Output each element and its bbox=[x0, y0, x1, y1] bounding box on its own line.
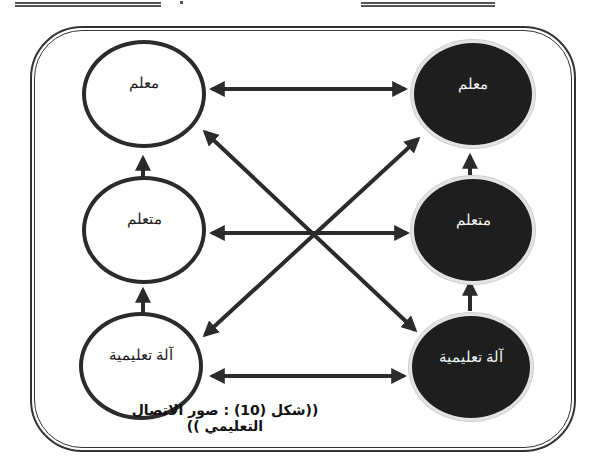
node-label: معلم bbox=[129, 74, 159, 92]
node-left-teacher: معلم bbox=[82, 40, 206, 148]
node-label: آلة تعليمية bbox=[109, 346, 174, 364]
node-left-learner: متعلم bbox=[82, 176, 206, 284]
node-right-instructional-machine: آلة تعليمية bbox=[409, 313, 533, 421]
node-label: متعلم bbox=[456, 211, 491, 229]
node-label: آلة تعليمية bbox=[439, 348, 504, 366]
figure-caption: ((شكل (10) : صور الاتصال التعليمي )) bbox=[100, 402, 350, 434]
arrow-diagonal-machine-to-teacher bbox=[205, 139, 418, 335]
node-right-learner: متعلم bbox=[411, 176, 535, 284]
node-label: معلم bbox=[458, 75, 488, 93]
node-right-teacher: معلم bbox=[411, 40, 535, 148]
node-label: متعلم bbox=[127, 210, 162, 228]
